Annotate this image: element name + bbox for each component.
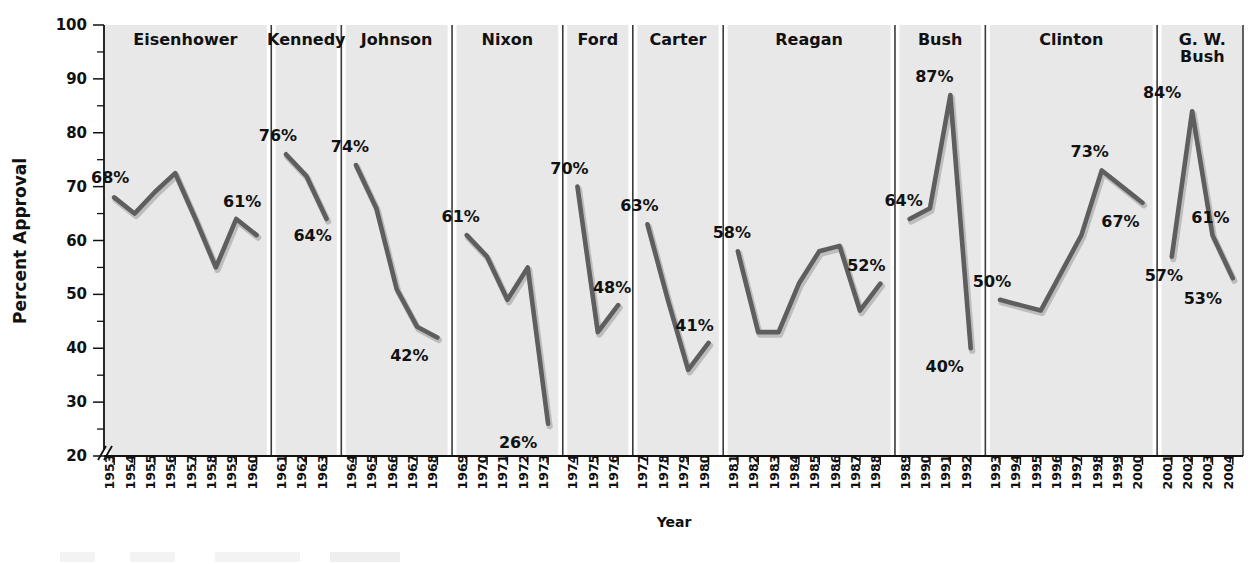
value-annotation: 50% bbox=[973, 272, 1011, 291]
value-annotation: 84% bbox=[1143, 83, 1181, 102]
x-tick-label: 1972 bbox=[516, 455, 531, 490]
x-tick-label: 1973 bbox=[536, 455, 551, 490]
value-annotation: 74% bbox=[331, 137, 369, 156]
x-tick-label: 1997 bbox=[1069, 455, 1084, 490]
x-tick-label: 1956 bbox=[163, 454, 178, 489]
y-tick-label: 100 bbox=[56, 16, 87, 34]
x-tick-label: 2000 bbox=[1130, 454, 1145, 489]
x-tick-label: 1991 bbox=[938, 455, 953, 490]
value-annotation: 87% bbox=[915, 67, 953, 86]
x-tick-label: 1968 bbox=[425, 455, 440, 490]
x-tick-label: 1975 bbox=[586, 455, 601, 490]
value-annotation: 57% bbox=[1145, 266, 1183, 285]
value-annotation: 40% bbox=[926, 357, 964, 376]
x-tick-label: 1984 bbox=[787, 454, 802, 489]
value-annotation: 61% bbox=[1191, 208, 1229, 227]
x-tick-label: 1963 bbox=[315, 455, 330, 490]
x-tick-label: 1986 bbox=[828, 454, 843, 489]
x-tick-label: 1996 bbox=[1049, 454, 1064, 489]
value-annotation: 61% bbox=[442, 207, 480, 226]
x-tick-label: 1987 bbox=[848, 455, 863, 490]
x-tick-label: 1982 bbox=[746, 455, 761, 490]
y-tick-label: 50 bbox=[66, 285, 87, 303]
x-tick-label: 1983 bbox=[767, 455, 782, 490]
x-tick-label: 1955 bbox=[143, 455, 158, 490]
panel-title: Kennedy bbox=[267, 30, 346, 49]
x-tick-label: 2004 bbox=[1221, 454, 1236, 489]
x-tick-label: 1971 bbox=[495, 455, 510, 490]
x-tick-label: 1990 bbox=[918, 454, 933, 489]
panel-background-bush bbox=[899, 25, 980, 456]
x-tick-label: 1999 bbox=[1110, 455, 1125, 490]
y-tick-label: 70 bbox=[66, 178, 87, 196]
x-tick-label: 1994 bbox=[1008, 454, 1023, 489]
x-tick-label: 1962 bbox=[294, 455, 309, 490]
x-tick-label: 2003 bbox=[1200, 455, 1215, 490]
value-annotation: 41% bbox=[675, 316, 713, 335]
x-tick-label: 1970 bbox=[475, 454, 490, 489]
y-tick-label: 60 bbox=[66, 232, 87, 250]
x-tick-label: 1960 bbox=[245, 454, 260, 489]
x-tick-label: 1981 bbox=[726, 455, 741, 490]
y-tick-label: 40 bbox=[66, 339, 87, 357]
panel-title: Carter bbox=[650, 30, 707, 49]
y-tick-label: 20 bbox=[66, 447, 87, 465]
value-annotation: 64% bbox=[884, 191, 922, 210]
x-tick-label: 1989 bbox=[898, 455, 913, 490]
x-tick-label: 1977 bbox=[635, 455, 650, 490]
x-tick-label: 1998 bbox=[1090, 455, 1105, 490]
y-tick-label: 30 bbox=[66, 393, 87, 411]
value-annotation: 42% bbox=[390, 346, 428, 365]
caption-sliver bbox=[0, 552, 450, 562]
value-annotation: 58% bbox=[713, 223, 751, 242]
value-annotation: 63% bbox=[620, 196, 658, 215]
x-tick-label: 1993 bbox=[988, 455, 1003, 490]
value-annotation: 68% bbox=[91, 168, 129, 187]
x-tick-label: 1953 bbox=[102, 455, 117, 490]
x-tick-label: 1980 bbox=[697, 454, 712, 489]
x-tick-label: 1954 bbox=[123, 454, 138, 489]
x-tick-label: 1959 bbox=[224, 455, 239, 490]
x-tick-label: 1978 bbox=[656, 455, 671, 490]
x-tick-label: 1964 bbox=[344, 454, 359, 489]
x-tick-label: 1969 bbox=[455, 455, 470, 490]
x-tick-label: 2002 bbox=[1180, 455, 1195, 490]
value-annotation: 70% bbox=[550, 159, 588, 178]
panel-title: Johnson bbox=[360, 30, 433, 49]
x-tick-label: 1979 bbox=[676, 455, 691, 490]
x-tick-label: 1974 bbox=[565, 454, 580, 489]
x-tick-label: 1988 bbox=[868, 455, 883, 490]
panel-title: Clinton bbox=[1039, 30, 1103, 49]
value-annotation: 52% bbox=[847, 256, 885, 275]
value-annotation: 73% bbox=[1071, 142, 1109, 161]
x-tick-label: 1965 bbox=[364, 455, 379, 490]
panel-background-eisenhower bbox=[104, 25, 267, 456]
panel-title: Reagan bbox=[775, 30, 843, 49]
x-tick-label: 1957 bbox=[184, 455, 199, 490]
value-annotation: 76% bbox=[259, 126, 297, 145]
value-annotation: 67% bbox=[1101, 212, 1139, 231]
panel-background-reagan bbox=[728, 25, 891, 456]
panel-title: Eisenhower bbox=[133, 30, 237, 49]
panel-background-ford bbox=[567, 25, 628, 456]
panel-title: Ford bbox=[577, 30, 618, 49]
x-tick-label: 1992 bbox=[959, 455, 974, 490]
panel-title: G. W.Bush bbox=[1179, 30, 1226, 66]
value-annotation: 64% bbox=[293, 226, 331, 245]
chart-root: 2030405060708090100 19531954195519561957… bbox=[0, 0, 1251, 564]
y-tick-label: 90 bbox=[66, 70, 87, 88]
value-annotation: 26% bbox=[499, 433, 537, 452]
presidential-approval-line-chart: 2030405060708090100 19531954195519561957… bbox=[0, 0, 1251, 564]
x-tick-label: 1995 bbox=[1029, 455, 1044, 490]
x-axis-title: Year bbox=[656, 514, 692, 530]
y-tick-label: 80 bbox=[66, 124, 87, 142]
x-tick-label: 1961 bbox=[274, 455, 289, 490]
x-tick-label: 1958 bbox=[204, 455, 219, 490]
y-axis: 2030405060708090100 bbox=[56, 16, 112, 465]
value-annotation: 61% bbox=[223, 192, 261, 211]
panel-title: Bush bbox=[918, 30, 963, 49]
x-tick-label: 1976 bbox=[606, 454, 621, 489]
value-annotation: 48% bbox=[593, 278, 631, 297]
panel-background-johnson bbox=[346, 25, 448, 456]
panel-backgrounds bbox=[104, 25, 1243, 456]
